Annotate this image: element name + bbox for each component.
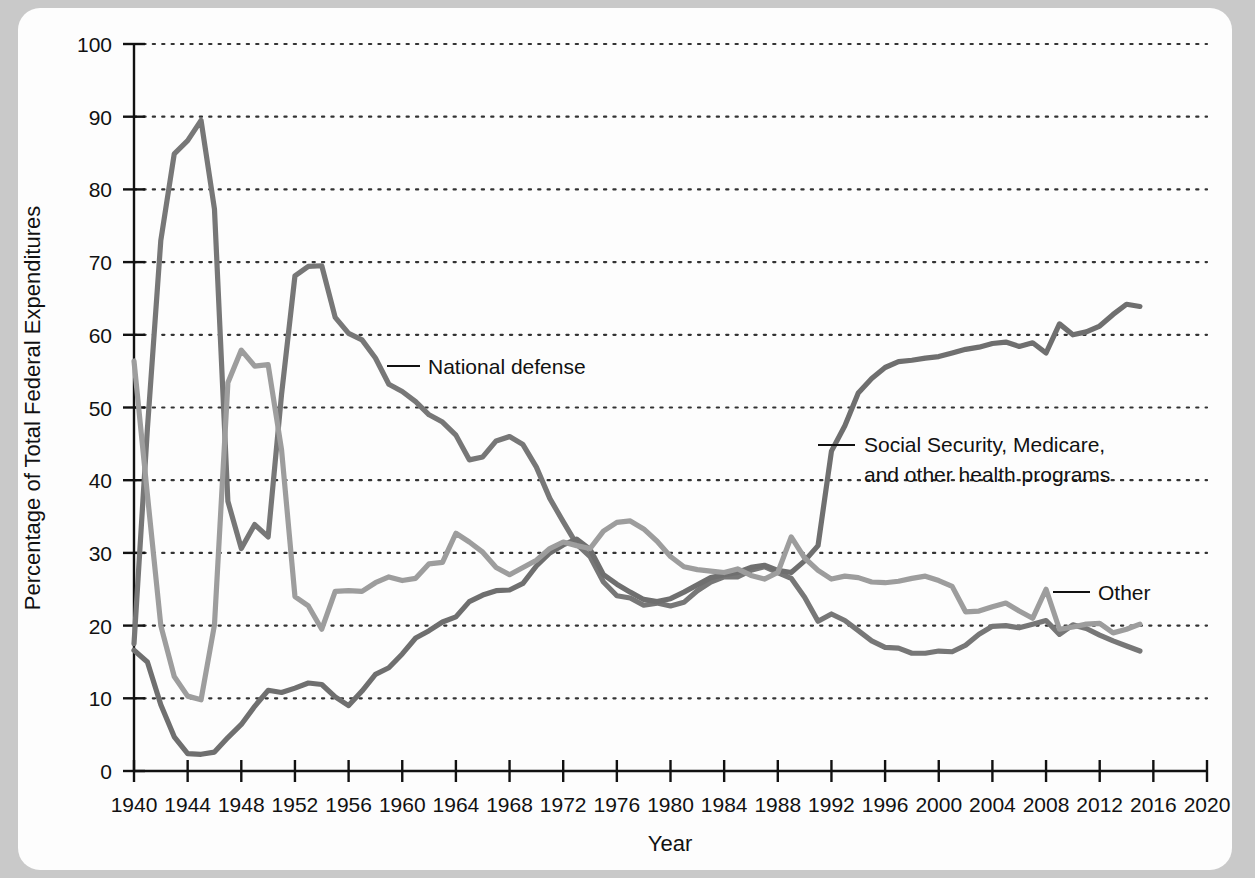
x-tick-label: 1996 xyxy=(862,793,909,816)
annotation-label-social-security-line2: and other health programs xyxy=(864,463,1110,486)
x-tick-label: 1984 xyxy=(701,793,748,816)
x-tick-label: 1956 xyxy=(325,793,372,816)
x-tick-label: 1968 xyxy=(486,793,533,816)
annotation-national-defense: National defense xyxy=(387,355,586,378)
x-tick-label: 1944 xyxy=(164,793,211,816)
x-tick-label: 1976 xyxy=(593,793,640,816)
annotation-label-other: Other xyxy=(1098,581,1151,604)
x-tick-label: 2008 xyxy=(1023,793,1070,816)
x-tick-label: 2020 xyxy=(1184,793,1231,816)
y-tick-label: 30 xyxy=(89,542,112,565)
x-tick-labels: 1940194419481952195619601964196819721976… xyxy=(111,793,1231,816)
y-tick-label: 10 xyxy=(89,687,112,710)
chart-canvas: 0102030405060708090100 19401944194819521… xyxy=(0,0,1255,878)
y-axis-title: Percentage of Total Federal Expenditures xyxy=(20,206,45,610)
y-tick-label: 80 xyxy=(89,178,112,201)
x-axis-title: Year xyxy=(648,831,692,856)
y-tick-label: 60 xyxy=(89,324,112,347)
x-tick-label: 1964 xyxy=(433,793,480,816)
x-tick-label: 1988 xyxy=(754,793,801,816)
x-tick-label: 1992 xyxy=(808,793,855,816)
x-tick-label: 1980 xyxy=(647,793,694,816)
annotation-label-social-security-line1: Social Security, Medicare, xyxy=(864,433,1105,456)
series-line xyxy=(134,120,1140,653)
annotation-other: Other xyxy=(1053,581,1151,604)
x-tick-label: 1960 xyxy=(379,793,426,816)
y-tick-label: 70 xyxy=(89,251,112,274)
y-tick-label: 20 xyxy=(89,615,112,638)
annotation-label-national-defense: National defense xyxy=(428,355,586,378)
x-tick-label: 1972 xyxy=(540,793,587,816)
x-tick-label: 1940 xyxy=(111,793,158,816)
x-tick-label: 2012 xyxy=(1076,793,1123,816)
y-tick-label: 90 xyxy=(89,106,112,129)
y-tick-label: 100 xyxy=(77,33,112,56)
y-tick-label: 50 xyxy=(89,397,112,420)
annotation-social-security: Social Security, Medicare, and other hea… xyxy=(818,433,1110,486)
y-tick-labels: 0102030405060708090100 xyxy=(77,33,112,783)
y-tick-label: 0 xyxy=(100,760,112,783)
x-tick-label: 2016 xyxy=(1130,793,1177,816)
series-line xyxy=(134,350,1140,700)
x-tick-label: 2000 xyxy=(915,793,962,816)
x-tick-label: 1948 xyxy=(218,793,265,816)
y-tick-label: 40 xyxy=(89,469,112,492)
x-tick-label: 2004 xyxy=(969,793,1016,816)
x-tick-label: 1952 xyxy=(272,793,319,816)
